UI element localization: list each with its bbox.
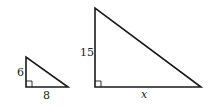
small-right-angle-marker [26,81,32,87]
small-horizontal-leg-label: 8 [43,89,50,102]
large-right-angle-marker [95,81,101,87]
small-triangle: 6 8 [17,57,68,102]
large-triangle: 15 x [80,8,201,101]
similar-triangles-diagram: 6 8 15 x [0,0,214,106]
large-vertical-leg-label: 15 [80,46,94,59]
large-triangle-shape [95,8,201,87]
large-horizontal-leg-label: x [141,88,148,101]
small-vertical-leg-label: 6 [17,66,24,79]
